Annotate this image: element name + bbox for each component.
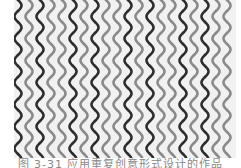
wavy-line [180,0,187,158]
wavy-line [224,0,231,158]
wavy-line [48,0,55,158]
wavy-line [169,0,176,158]
wavy-line [114,0,121,158]
wavy-line [191,0,198,158]
wavy-line [26,0,33,158]
wavy-line [81,0,88,158]
wavy-line-pattern-figure [14,0,236,158]
wavy-line [70,0,77,158]
wavy-line [213,0,220,158]
wavy-line [92,0,99,158]
wavy-lines-graphic [14,0,236,158]
wavy-line [59,0,66,158]
wavy-line [202,0,209,158]
wavy-line [147,0,154,158]
wavy-line [15,0,22,158]
wavy-line [158,0,165,158]
wavy-line [136,0,143,158]
wavy-line [125,0,132,158]
wavy-line [37,0,44,158]
wavy-line [103,0,110,158]
figure-caption: 图 3-31 应用重复创意形式设计的作品 [0,158,241,168]
